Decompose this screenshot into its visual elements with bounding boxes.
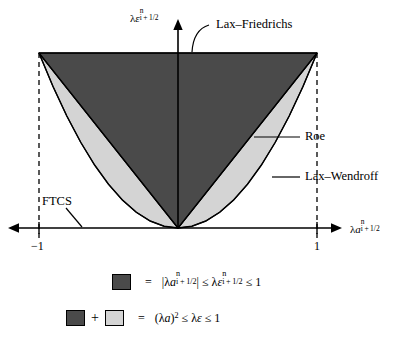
leader-ftcs	[66, 208, 82, 227]
x-axis-arrow-left	[8, 223, 19, 233]
y-axis-arrow-up	[173, 19, 182, 30]
light-region-left	[124, 228, 178, 250]
stability-region-figure: λεni + 1/2 λani + 1/2 −1 1 Lax–Friedrich…	[0, 0, 405, 349]
leader-lax-friedrichs	[192, 25, 209, 52]
x-axis-arrow-right	[331, 223, 342, 233]
figure-canvas	[0, 0, 405, 349]
